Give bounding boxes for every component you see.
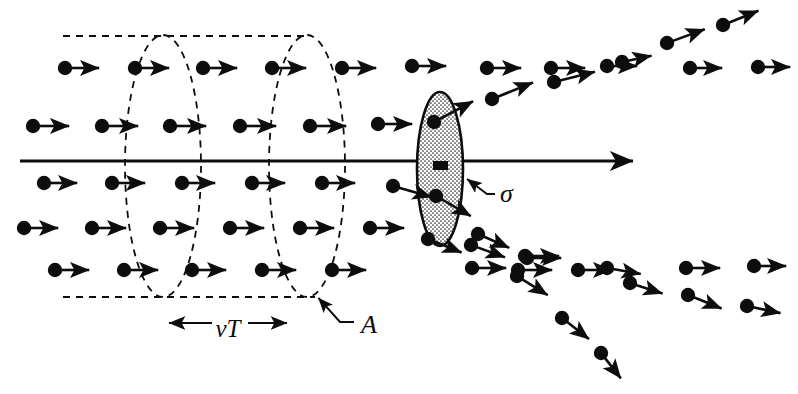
scattered-velocity-arrow-up: [673, 29, 705, 41]
incoming-particle: [363, 221, 377, 235]
area-leader-line: [318, 298, 354, 322]
scattered-particle-down: [600, 261, 614, 275]
sigma-leader-line: [467, 179, 495, 194]
cylinder-length-label: vT: [216, 315, 243, 342]
scattered-particle-down: [464, 238, 478, 252]
scattered-particles-upper: [480, 11, 790, 107]
incoming-particle: [58, 61, 72, 75]
incoming-particle: [117, 263, 131, 277]
scattered-particle-down: [465, 261, 479, 275]
incoming-particle: [37, 176, 51, 190]
scattered-particle-up: [660, 36, 674, 50]
incoming-particle: [85, 221, 99, 235]
scattered-velocity-arrow-down: [694, 297, 722, 308]
incoming-particle-beam: [17, 59, 446, 277]
scattered-particle-up: [485, 92, 499, 106]
incoming-particle: [128, 61, 142, 75]
scattered-particle-up: [683, 61, 697, 75]
incoming-particle: [293, 221, 307, 235]
scattered-particles-lower: [464, 227, 786, 379]
scattered-velocity-arrow-down: [613, 269, 641, 274]
scattering-diagram-figure: σ vT A: [0, 0, 798, 394]
scattered-particle-down: [518, 249, 532, 263]
incoming-particle: [255, 263, 269, 277]
scattered-particle-down: [747, 259, 761, 273]
target-particle: [421, 232, 435, 246]
scattered-particle-down: [571, 263, 585, 277]
incoming-particle: [163, 119, 177, 133]
incoming-particle: [196, 61, 210, 75]
cross-section-target: [417, 92, 463, 246]
scattered-velocity-arrow-up: [628, 56, 651, 61]
target-particle: [386, 179, 400, 193]
scattered-particle-up: [547, 75, 561, 89]
incoming-particle: [223, 221, 237, 235]
scattered-particle-down: [740, 299, 754, 313]
incoming-particle: [245, 176, 259, 190]
incoming-particle: [405, 59, 419, 73]
scattered-velocity-arrow-down: [522, 279, 547, 295]
scattered-velocity-arrow-up: [729, 11, 759, 23]
scattered-particle-up: [600, 59, 614, 73]
diagram-canvas: σ vT A: [0, 0, 798, 394]
incoming-particle: [371, 117, 385, 131]
scattered-particle-up: [615, 55, 629, 69]
incoming-particle: [26, 119, 40, 133]
incoming-particle: [185, 263, 199, 277]
scattered-particle-down: [679, 261, 693, 275]
scattered-velocity-arrow-down: [567, 322, 589, 339]
cylinder-back-face: [269, 35, 345, 297]
scattered-particle-down: [623, 276, 637, 290]
scattered-particle-up: [480, 61, 494, 75]
incoming-particle: [233, 119, 247, 133]
scattered-particle-up: [544, 61, 558, 75]
incoming-particle: [265, 61, 279, 75]
scattered-particle-down: [594, 346, 608, 360]
scattered-velocity-arrow-up: [560, 72, 595, 81]
incoming-particle: [105, 176, 119, 190]
incoming-particle: [335, 61, 349, 75]
scattered-particle-up: [751, 60, 765, 74]
scattered-particle-down: [555, 311, 569, 325]
scattered-velocity-arrow-down: [636, 285, 663, 294]
scattered-velocity-arrow-down: [605, 358, 621, 378]
target-center-marker: [433, 161, 448, 170]
incoming-particle: [175, 176, 189, 190]
scattered-particle-up: [716, 18, 730, 32]
incoming-particle: [17, 221, 31, 235]
incoming-particle: [48, 263, 62, 277]
scattered-velocity-arrow-down: [753, 307, 780, 313]
target-particle: [427, 115, 441, 129]
incoming-particle: [315, 176, 329, 190]
incoming-particle: [303, 119, 317, 133]
scattered-particle-down: [510, 269, 524, 283]
scattered-velocity-arrow-up: [498, 82, 533, 96]
cylinder-area-label: A: [359, 310, 377, 339]
scattered-particle-down: [681, 288, 695, 302]
scattered-velocity-arrow-down: [484, 237, 510, 248]
scattered-velocity-arrow-down: [477, 247, 505, 257]
incoming-particle: [95, 119, 109, 133]
incoming-particle: [325, 263, 339, 277]
cross-section-label: σ: [500, 179, 514, 208]
incoming-particle: [153, 221, 167, 235]
